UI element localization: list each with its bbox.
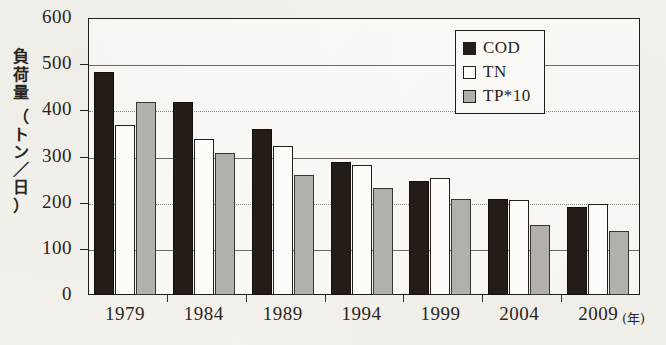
bar-tp xyxy=(215,153,235,295)
x-tick-mark xyxy=(403,295,404,302)
x-tick-label: 1979 xyxy=(95,303,155,325)
x-tick-mark xyxy=(561,295,562,302)
bar-tn xyxy=(273,146,293,295)
y-tick-mark xyxy=(80,110,88,111)
x-tick-label: 1994 xyxy=(332,303,392,325)
y-tick-mark xyxy=(80,157,88,158)
bar-cod xyxy=(94,72,114,295)
bar-cod xyxy=(252,129,272,295)
bar-tp xyxy=(373,188,393,295)
x-tick-mark xyxy=(167,295,168,302)
bar-group xyxy=(331,18,393,295)
legend-label-tn: TN xyxy=(483,62,507,82)
bar-group xyxy=(94,18,156,295)
bar-tn xyxy=(430,178,450,295)
bar-cod xyxy=(173,102,193,295)
x-tick-label: 1999 xyxy=(410,303,470,325)
x-tick-label: 1984 xyxy=(174,303,234,325)
x-tick-mark xyxy=(482,295,483,302)
x-tick-mark xyxy=(325,295,326,302)
x-tick-mark xyxy=(246,295,247,302)
bar-tp xyxy=(451,199,471,295)
bar-tp xyxy=(294,175,314,295)
y-tick-label: 500 xyxy=(16,52,72,74)
bar-tn xyxy=(194,139,214,295)
x-tick-label: 2009 xyxy=(568,303,628,325)
legend-swatch-tp-icon xyxy=(463,90,476,103)
y-tick-mark xyxy=(80,249,88,250)
chart-figure: 負荷量（トン／日） 0100200300400500600 1979198419… xyxy=(0,0,666,345)
y-axis-title-char: ト xyxy=(13,126,29,144)
y-tick-label: 0 xyxy=(16,283,72,305)
legend-item-tp: TP*10 xyxy=(463,84,538,108)
bar-group xyxy=(252,18,314,295)
bar-group xyxy=(567,18,629,295)
y-tick-label: 100 xyxy=(16,237,72,259)
y-tick-mark xyxy=(80,64,88,65)
x-tick-label: 1989 xyxy=(253,303,313,325)
bar-group xyxy=(173,18,235,295)
bar-tn xyxy=(588,204,608,295)
x-axis-unit-label: (年) xyxy=(622,308,645,327)
bar-cod xyxy=(567,207,587,295)
y-tick-label: 400 xyxy=(16,98,72,120)
legend-item-cod: COD xyxy=(463,36,538,60)
bar-groups xyxy=(88,18,640,295)
x-tick-label: 2004 xyxy=(489,303,549,325)
bar-cod xyxy=(488,199,508,295)
y-tick-label: 300 xyxy=(16,145,72,167)
legend-label-tp: TP*10 xyxy=(483,86,531,106)
legend: COD TN TP*10 xyxy=(455,30,545,114)
legend-item-tn: TN xyxy=(463,60,538,84)
bar-tn xyxy=(352,165,372,295)
legend-swatch-cod-icon xyxy=(463,42,476,55)
bar-tn xyxy=(509,200,529,295)
y-tick-label: 200 xyxy=(16,191,72,213)
legend-label-cod: COD xyxy=(483,38,520,58)
y-tick-mark xyxy=(80,203,88,204)
y-tick-label: 600 xyxy=(16,6,72,28)
bar-tn xyxy=(115,125,135,295)
bar-tp xyxy=(136,102,156,295)
x-axis-labels: 1979198419891994199920042009 xyxy=(88,303,640,333)
bar-tp xyxy=(530,225,550,295)
legend-swatch-tn-icon xyxy=(463,66,476,79)
bar-tp xyxy=(609,231,629,295)
bar-cod xyxy=(409,181,429,295)
bar-cod xyxy=(331,162,351,295)
